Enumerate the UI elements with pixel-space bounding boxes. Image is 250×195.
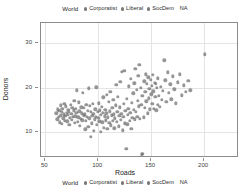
scatter-point [166,71,169,74]
scatter-point [133,118,136,121]
legend-swatch-liberal-bottom [121,181,124,184]
legend-label-liberal: Liberal [126,6,143,12]
scatter-point [163,59,166,62]
legend-label-socdem: SocDem [152,6,174,12]
scatter-point [119,80,122,83]
scatter-point [75,89,78,92]
scatter-point [189,89,192,92]
scatter-point [133,81,136,84]
scatter-point [178,73,181,76]
scatter-point [116,95,119,98]
scatter-point [173,88,176,91]
scatter-point [121,115,124,118]
legend-item-na[interactable]: NA [178,6,188,12]
legend-item-corporatist[interactable]: Corporatist [84,6,117,12]
y-tick-mark [35,87,38,88]
scatter-point [107,100,110,103]
legend-label-na-bottom: NA [180,180,188,186]
scatter-point [130,127,133,130]
scatter-point [160,98,163,101]
scatter-point [135,88,138,91]
gridline-horizontal [41,43,237,44]
scatter-point [149,93,152,96]
scatter-point [141,152,144,155]
y-axis-label: Donors [2,78,9,101]
legend-item-liberal[interactable]: Liberal [121,6,143,12]
legend-swatch-corporatist [84,7,87,10]
x-tick-mark [150,158,151,161]
y-tick-label: 30 [25,39,32,45]
scatter-point [105,112,108,115]
legend-item-socdem[interactable]: SocDem [147,6,174,12]
legend-label-corporatist: Corporatist [89,6,117,12]
scatter-point [110,106,113,109]
legend-item-socdem-bottom[interactable]: SocDem [147,180,174,186]
scatter-point [99,130,102,133]
x-tick-mark [97,158,98,161]
x-axis-label: Roads [0,169,250,176]
scatter-point [130,101,133,104]
scatter-point [87,87,90,90]
scatter-point [124,147,127,150]
scatter-point [113,126,116,129]
x-tick-label: 150 [145,162,155,168]
scatter-point [138,63,141,66]
scatter-point [184,90,187,93]
scatter-point [165,100,168,103]
legend-item-corporatist-bottom[interactable]: Corporatist [84,180,117,186]
scatter-point [61,107,64,110]
scatter-point [126,122,129,125]
scatter-point [186,79,189,82]
scatter-point [171,75,174,78]
scatter-point [109,90,112,93]
legend-item-na-bottom[interactable]: NA [178,180,188,186]
scatter-plot-figure: World Corporatist Liberal SocDem NA 1020… [0,0,250,195]
x-tick-mark [203,158,204,161]
legend-bottom: World Corporatist Liberal SocDem NA [0,180,250,186]
scatter-point [106,116,109,119]
scatter-point [125,97,128,100]
scatter-point [146,112,149,115]
scatter-point [91,102,94,105]
scatter-point [154,82,157,85]
scatter-point [164,79,167,82]
y-tick-mark [35,131,38,132]
scatter-point [156,77,159,80]
scatter-point [89,135,92,138]
scatter-point [151,102,154,105]
x-tick-label: 200 [198,162,208,168]
scatter-point [81,91,84,94]
scatter-point [145,82,148,85]
scatter-point [155,109,158,112]
scatter-point [114,83,117,86]
legend-swatch-liberal [121,7,124,10]
scatter-point [72,99,75,102]
plot-panel [40,22,238,157]
scatter-point [168,83,171,86]
scatter-point [180,93,183,96]
scatter-point [158,105,161,108]
scatter-point [112,113,115,116]
y-tick-label: 20 [25,84,32,90]
x-tick-mark [44,158,45,161]
scatter-point [100,121,103,124]
scatter-point [134,67,137,70]
legend-item-liberal-bottom[interactable]: Liberal [121,180,143,186]
legend-top: World Corporatist Liberal SocDem NA [0,6,250,12]
legend-swatch-socdem-bottom [147,181,150,184]
scatter-point [106,127,109,130]
scatter-point [170,97,173,100]
legend-label-liberal-bottom: Liberal [126,180,143,186]
scatter-point [136,99,139,102]
scatter-point [108,110,111,113]
scatter-point [167,91,170,94]
gridline-horizontal [41,132,237,133]
scatter-point [141,94,144,97]
scatter-point [87,125,90,128]
scatter-point [115,120,118,123]
y-tick-mark [35,42,38,43]
legend-title-bottom: World [62,180,78,186]
scatter-point [151,73,154,76]
scatter-point [114,104,117,107]
x-tick-label: 50 [41,162,48,168]
